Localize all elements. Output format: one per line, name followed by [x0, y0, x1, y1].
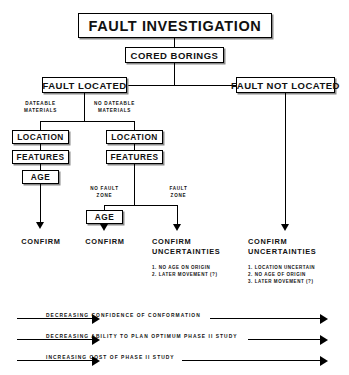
connector-not-located-down	[285, 93, 286, 226]
node-age-left: AGE	[22, 170, 59, 184]
connector-title-to-cored	[174, 38, 175, 47]
trend-line-left	[17, 360, 95, 361]
branch-label-dateable: DATEABLE MATERIALS	[16, 100, 65, 114]
trend-label: INCREASING COST OF PHASE II STUDY	[46, 355, 175, 360]
node-fault-not-located: FAULT NOT LOCATED	[236, 77, 335, 93]
arrowhead-confirm-mid	[100, 224, 108, 231]
trend-line-right	[210, 318, 323, 319]
node-features-left: FEATURES	[12, 150, 69, 164]
connector-no-dateable-down	[134, 121, 135, 130]
trend-band-confidence: DECREASING CONFIDENCE OF CONFORMATION	[0, 310, 349, 328]
trend-label: DECREASING CONFIDENCE OF CONFORMATION	[46, 313, 201, 318]
connector-located-split	[40, 121, 135, 122]
node-location-left: LOCATION	[12, 130, 69, 144]
connector-age-left-down	[40, 184, 41, 224]
arrowhead-confirm-uncertainties-right	[281, 224, 289, 231]
connector-cored-down	[174, 63, 175, 86]
trend-band-planning: DECREASING ABILITY TO PLAN OPTIMUM PHASE…	[0, 331, 349, 349]
trend-line-left	[17, 339, 95, 340]
connector-located-down	[84, 93, 85, 122]
trend-arrow-right-icon	[320, 356, 328, 366]
uncertainty-list-right: 1. LOCATION UNCERTAIN 2. NO AGE OF ORIGI…	[248, 264, 315, 286]
branch-label-no-dateable: NO DATEABLE MATERIALS	[86, 100, 143, 114]
node-age-mid: AGE	[86, 210, 123, 224]
node-features-mid: FEATURES	[106, 150, 163, 164]
arrowhead-confirm-uncertainties-mid	[173, 224, 181, 231]
outcome-confirm-uncertainties-right: CONFIRM UNCERTAINTIES	[248, 237, 317, 256]
connector-fault-zone-down	[177, 205, 178, 226]
trend-label: DECREASING ABILITY TO PLAN OPTIMUM PHASE…	[46, 334, 238, 339]
node-fault-investigation: FAULT INVESTIGATION	[78, 13, 272, 38]
trend-band-cost: INCREASING COST OF PHASE II STUDY	[0, 352, 349, 370]
node-fault-located: FAULT LOCATED	[42, 77, 127, 93]
branch-label-no-fault-zone: NO FAULT ZONE	[82, 185, 127, 199]
fault-investigation-flowchart: FAULT INVESTIGATION CORED BORINGS FAULT …	[0, 0, 349, 375]
connector-fault-zone-split	[104, 205, 178, 206]
trend-arrow-right-icon	[320, 314, 328, 324]
node-location-mid: LOCATION	[106, 130, 163, 144]
outcome-confirm-left: CONFIRM	[10, 237, 72, 247]
outcome-confirm-uncertainties-mid: CONFIRM UNCERTAINTIES	[152, 237, 221, 256]
trend-line-right	[248, 339, 323, 340]
connector-dateable-down	[40, 121, 41, 130]
trend-line-right	[182, 360, 323, 361]
uncertainty-list-mid: 1. NO AGE ON ORIGIN 2. LATER MOVEMENT (?…	[152, 264, 217, 278]
arrowhead-confirm-left	[36, 222, 44, 229]
trend-arrow-right-icon	[320, 335, 328, 345]
trend-line-left	[17, 318, 95, 319]
branch-label-fault-zone: FAULT ZONE	[156, 185, 201, 199]
node-cored-borings: CORED BORINGS	[125, 47, 224, 63]
outcome-confirm-mid: CONFIRM	[74, 237, 136, 247]
connector-features-mid-down	[134, 164, 135, 206]
